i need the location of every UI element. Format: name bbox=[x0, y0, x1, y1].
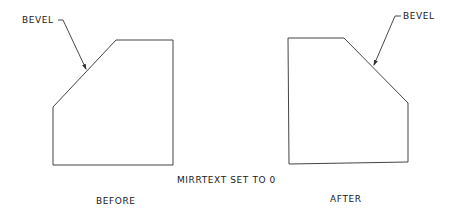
after-label: AFTER bbox=[330, 194, 362, 204]
mirrtext-diagram bbox=[0, 0, 456, 218]
after-beveled-shape bbox=[288, 38, 408, 164]
before-bevel-leader-arrow bbox=[58, 20, 86, 69]
before-figure bbox=[53, 20, 173, 165]
before-label: BEFORE bbox=[96, 196, 136, 206]
after-figure bbox=[288, 16, 408, 164]
after-bevel-callout: BEVEL bbox=[403, 11, 435, 21]
after-bevel-leader-arrow bbox=[374, 16, 401, 65]
caption: MIRRTEXT SET TO 0 bbox=[177, 175, 276, 185]
before-bevel-callout: BEVEL bbox=[22, 15, 54, 25]
before-beveled-shape bbox=[53, 40, 173, 165]
